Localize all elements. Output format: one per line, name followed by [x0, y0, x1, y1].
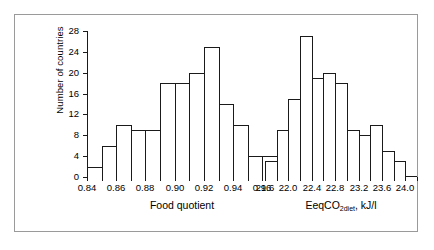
- histogram-bar: [248, 156, 263, 177]
- x-axis-tick: [417, 177, 418, 181]
- y-axis-tick: [83, 156, 87, 157]
- histogram-bar: [116, 125, 132, 177]
- x-axis-tick: [405, 177, 406, 181]
- histogram-bar: [131, 130, 146, 177]
- histogram-bar: [233, 125, 249, 177]
- x-axis-tick-label: 0.88: [130, 182, 160, 193]
- x-axis-tick: [233, 177, 234, 181]
- histogram-bar: [102, 146, 117, 177]
- x-axis-tick: [262, 177, 263, 181]
- y-axis-tick: [83, 52, 87, 53]
- x-axis-tick: [323, 177, 324, 181]
- y-axis-tick-label: 24: [57, 47, 79, 57]
- y-axis-tick-label: 16: [57, 89, 79, 99]
- y-axis-tick-label: 4: [57, 151, 79, 161]
- x-axis-label-right-pre: EeqCO: [305, 199, 339, 211]
- x-axis-tick: [370, 177, 371, 181]
- x-axis-tick-label: 0.90: [160, 182, 190, 193]
- x-axis-tick: [347, 177, 348, 181]
- plot-area-left: 04812162024280.840.860.880.900.920.940.9…: [87, 31, 277, 177]
- x-axis-tick: [277, 177, 278, 181]
- x-axis-tick: [175, 177, 176, 181]
- x-axis-tick: [335, 177, 336, 181]
- x-axis-tick: [248, 177, 249, 181]
- y-axis-line: [87, 31, 88, 177]
- y-axis-tick: [83, 73, 87, 74]
- x-axis-label-right: EeqCO2diet, kJ/l: [265, 199, 417, 213]
- y-axis-tick-label: 20: [57, 68, 79, 78]
- y-axis-tick-label: 0: [57, 172, 79, 182]
- x-axis-tick: [131, 177, 132, 181]
- x-axis-tick-label: 0.84: [72, 182, 102, 193]
- x-axis-tick: [87, 177, 88, 181]
- x-axis-tick: [145, 177, 146, 181]
- x-axis-tick-label: 0.92: [189, 182, 219, 193]
- x-axis-tick: [312, 177, 313, 181]
- x-axis-tick: [265, 177, 266, 181]
- histogram-bar: [175, 83, 190, 177]
- histogram-bar: [394, 161, 406, 177]
- histogram-bar: [145, 130, 161, 177]
- y-axis-tick: [83, 31, 87, 32]
- y-axis-tick: [83, 94, 87, 95]
- x-axis-tick-label: 0.94: [218, 182, 248, 193]
- histogram-bar: [87, 167, 103, 177]
- x-axis-tick: [300, 177, 301, 181]
- x-axis-tick: [189, 177, 190, 181]
- plot-area-right: 21.622.022.422.823.223.624.0: [265, 31, 417, 177]
- y-axis-tick: [83, 135, 87, 136]
- x-axis-label-right-subscript: 2diet: [340, 205, 355, 212]
- x-axis-tick: [382, 177, 383, 181]
- x-axis-tick: [204, 177, 205, 181]
- x-axis-tick: [116, 177, 117, 181]
- x-axis-tick: [359, 177, 360, 181]
- x-axis-tick-label: 0.86: [101, 182, 131, 193]
- x-axis-tick: [160, 177, 161, 181]
- y-axis-tick-label: 12: [57, 109, 79, 119]
- x-axis-label-left: Food quotient: [87, 199, 277, 211]
- histogram-bar: [160, 83, 176, 177]
- histogram-bar: [189, 73, 205, 177]
- histogram-eeqco2diet: 21.622.022.422.823.223.624.0 EeqCO2diet,…: [265, 31, 417, 196]
- y-axis-tick-label: 8: [57, 130, 79, 140]
- histogram-bar: [219, 104, 234, 177]
- figure-frame: Number of countries 04812162024280.840.8…: [14, 14, 418, 232]
- y-axis-tick-label: 28: [57, 26, 79, 36]
- x-axis-tick: [288, 177, 289, 181]
- x-axis-label-right-post: , kJ/l: [355, 199, 377, 211]
- x-axis-tick: [394, 177, 395, 181]
- x-axis-tick: [219, 177, 220, 181]
- histogram-food-quotient: 04812162024280.840.860.880.900.920.940.9…: [87, 31, 277, 196]
- y-axis-tick: [83, 114, 87, 115]
- histogram-bar: [204, 47, 220, 177]
- x-axis-tick: [102, 177, 103, 181]
- x-axis-tick-label: 24.0: [390, 182, 420, 193]
